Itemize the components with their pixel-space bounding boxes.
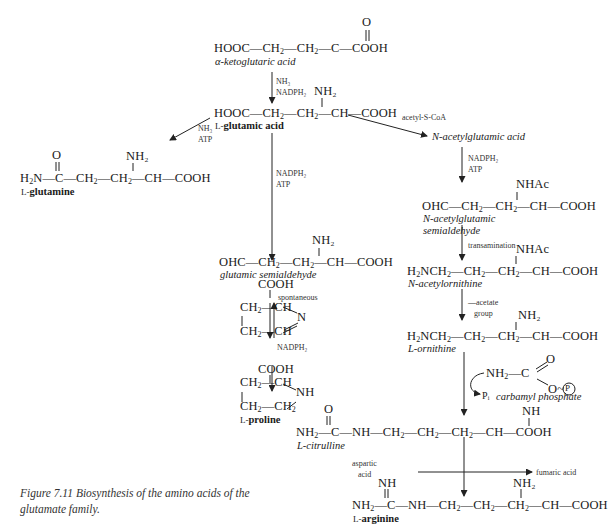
cit-carbonyl-o: O [324,402,333,417]
p5c-row1: CH2—CH [240,300,292,315]
reagent-acetate-group: —acetate group [468,297,498,319]
glu-amino: NH₂ [314,84,337,99]
glu-name: L-glutamic acid [215,120,284,131]
reagent-nag-nags: NADPH₂ ATP [468,153,498,175]
gsa-formula: OHC—CH2—CH2—CH—COOH [219,255,393,270]
carbp-formula: NH2—C [486,366,529,381]
naorn-name: N-acetylornithine [408,278,482,289]
cit-formula: NH2—C—NH—CH2—CH2—CH2—CH—COOH [296,425,552,440]
gln-amino: NH₂ [126,149,149,164]
reagent-nh3: NH₃ [276,76,306,87]
reagent-p5c-pro: NADPH₂ [277,342,307,353]
figure-caption: Figure 7.11 Biosynthesis of the amino ac… [20,485,250,517]
gln-formula: H2N—C—CH2—CH2—CH—COOH [20,171,211,186]
arg-formula: NH2—C—NH—CH2—CH2—CH2—CH—COOH [352,498,608,513]
pro-name: L-proline [240,414,280,425]
gln-name: L-glutamine [21,186,74,197]
aketo-carbonyl-o: O [362,15,371,30]
nags-name: N-acetylglutamic semialdehyde [423,213,495,237]
reagent-acetyl-s-coa: acetyl-S-CoA [402,112,446,123]
pro-row2: CH2—CH2 [240,399,296,414]
p5c-n: N [297,310,306,325]
cit-nh: NH [522,404,540,419]
carbp-o-top: O [546,352,555,367]
reagent-atp: ATP [468,164,498,175]
pi-label: Pᵢ [482,390,489,401]
pro-row1: CH2—CH [240,375,292,390]
nags-nhac: NHAc [516,177,549,192]
gsa-amino: NH₂ [312,233,335,248]
aketo-name: α-ketoglutaric acid [215,56,295,67]
gln-carbonyl-o: O [52,148,61,163]
carbp-name: carbamyl phosphate [496,391,581,402]
reagent-aketo-glu: NH₃ NADPH₂ [276,76,306,98]
orn-amino: NH₂ [518,308,541,323]
p5c-row2: CH2—CH [240,324,292,339]
reagent-aspartic-acid: aspartic acid [352,458,377,480]
nag-name: N-acetylglutamic acid [432,131,525,142]
orn-name: L-ornithine [408,343,456,354]
p5c-cooh: COOH [258,277,294,292]
reagent-glu-gsa: NADPH₂ ATP [276,168,306,190]
orn-formula: H2NCH2—CH2—CH2—CH—COOH [407,329,598,344]
arg-nh: NH [378,476,396,491]
glu-formula: HOOC—CH2—CH2—CH—COOH [214,106,397,121]
nags-formula: OHC—CH2—CH2—CH—COOH [422,199,596,214]
reagent-atp: ATP [276,179,306,190]
naorn-formula: H2NCH2—CH2—CH2—CH—COOH [407,264,598,279]
arg-name: L-arginine [353,513,399,524]
reagent-atp: ATP [198,134,212,145]
reagent-nadph2: NADPH₂ [276,168,306,179]
naorn-nhac: NHAc [516,242,549,257]
cit-name: L-citrulline [297,440,345,451]
reagent-glu-gln: NH₃ ATP [198,123,212,145]
aketo-formula: HOOC—CH2—CH2—C—COOH [214,41,388,56]
arg-amino: NH₂ [513,476,536,491]
reagent-nadph2: NADPH₂ [468,153,498,164]
reagent-transamination: transamination [468,240,516,251]
reagent-nh3: NH₃ [198,123,212,134]
reagent-fumaric-acid: fumaric acid [536,467,576,478]
pro-nh: NH [296,385,314,400]
reagent-nadph2: NADPH₂ [276,87,306,98]
